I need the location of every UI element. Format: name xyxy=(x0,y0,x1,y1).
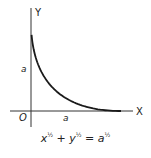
y-intercept-label: a xyxy=(21,64,27,74)
origin-label: O xyxy=(19,112,27,123)
eq-plus: + xyxy=(56,132,65,145)
eq-exp-a: ½ xyxy=(105,131,111,138)
y-axis-label: Y xyxy=(34,7,42,18)
curve-equation: x½ + y½ = a½ xyxy=(0,131,151,145)
eq-a: a xyxy=(98,132,105,145)
eq-exp-y: ½ xyxy=(76,131,82,138)
eq-exp-x: ½ xyxy=(47,131,53,138)
eq-equals: = xyxy=(85,132,94,145)
x-axis-label: X xyxy=(136,106,143,117)
curve xyxy=(32,35,121,111)
x-intercept-label: a xyxy=(63,113,69,123)
